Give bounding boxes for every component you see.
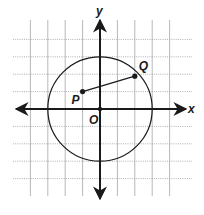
origin-label: O — [89, 113, 99, 127]
point-p-label: P — [72, 93, 81, 107]
segment-pq — [83, 76, 135, 91]
point-q — [132, 74, 137, 79]
point-p — [80, 89, 85, 94]
coordinate-plane-figure: P Q O x y — [0, 0, 204, 215]
point-q-label: Q — [139, 59, 149, 73]
point-origin — [98, 107, 102, 111]
y-axis-label: y — [95, 4, 104, 18]
x-axis-label: x — [187, 102, 196, 116]
